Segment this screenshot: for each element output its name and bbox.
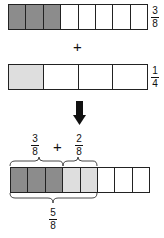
- cell: [98, 168, 115, 192]
- denominator: 8: [32, 147, 38, 157]
- cell: [133, 168, 149, 192]
- numerator: 3: [32, 134, 38, 144]
- plus-symbol-result: +: [53, 139, 62, 154]
- cell-shaded: [46, 168, 63, 192]
- cell-shaded: [28, 168, 45, 192]
- cell-shaded: [11, 168, 28, 192]
- cell-shaded-light: [81, 168, 98, 192]
- brace-five-eighths: [10, 193, 97, 203]
- bar-five-eighths: [10, 167, 150, 193]
- brace-three-eighths: [10, 157, 63, 166]
- down-arrow-icon: [0, 0, 164, 238]
- fraction-five-eighths-label: 5 8: [49, 208, 57, 231]
- denominator: 8: [50, 221, 56, 231]
- cell-shaded-light: [63, 168, 80, 192]
- brace-two-eighths: [63, 157, 97, 166]
- numerator: 2: [76, 134, 82, 144]
- cell: [115, 168, 132, 192]
- numerator: 5: [50, 208, 56, 218]
- fraction-two-eighths-label: 2 8: [75, 134, 83, 157]
- denominator: 8: [76, 147, 82, 157]
- fraction-three-eighths-label: 3 8: [31, 134, 39, 157]
